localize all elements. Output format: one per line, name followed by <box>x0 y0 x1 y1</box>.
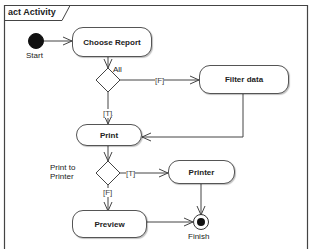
activity-diagram-canvas <box>0 0 310 249</box>
guard-all-true: [T] <box>103 109 112 118</box>
start-node-icon <box>29 34 44 49</box>
action-printer[interactable]: Printer <box>168 160 235 184</box>
activity-frame <box>5 6 308 249</box>
decision-print-to-printer-icon <box>96 161 120 185</box>
decision-print-to-printer-label-line1: Print to <box>50 163 75 172</box>
edge-filter-data-to-print <box>142 94 243 137</box>
guard-printer-false: [F] <box>103 188 112 197</box>
action-printer-label: Printer <box>189 168 215 177</box>
action-print-label: Print <box>100 131 118 140</box>
action-preview[interactable]: Preview <box>72 210 147 238</box>
action-preview-label: Preview <box>94 220 124 229</box>
frame-label: act Activity <box>8 8 56 17</box>
guard-all-false: [F] <box>155 76 164 85</box>
action-choose-report[interactable]: Choose Report <box>72 27 152 57</box>
action-print[interactable]: Print <box>76 124 142 146</box>
finish-node-icon <box>194 215 209 230</box>
action-filter-data-label: Filter data <box>225 75 263 84</box>
action-choose-report-label: Choose Report <box>83 38 140 47</box>
finish-label: Finish <box>188 232 209 241</box>
guard-printer-true: [T] <box>126 169 135 178</box>
start-label: Start <box>26 51 43 60</box>
decision-all-label: All <box>113 65 122 74</box>
decision-print-to-printer-label-line2: Printer <box>50 172 74 181</box>
action-filter-data[interactable]: Filter data <box>199 65 289 94</box>
